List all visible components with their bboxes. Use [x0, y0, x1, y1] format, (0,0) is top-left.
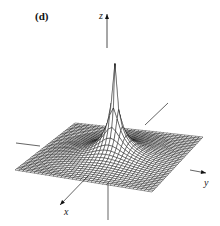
z-axis-label: z: [99, 10, 103, 21]
panel-label: (d): [35, 10, 48, 22]
y-axis-label: y: [204, 177, 208, 188]
surface-plot: [0, 0, 220, 226]
x-axis-label: x: [64, 206, 68, 217]
wireframe-mesh: [15, 64, 203, 192]
